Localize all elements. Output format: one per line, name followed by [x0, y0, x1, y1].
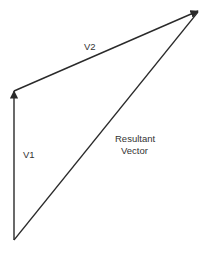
resultant-vector-arrow — [14, 12, 198, 240]
label-v2: V2 — [84, 41, 96, 52]
vector-diagram: V2 V1 Resultant Vector — [0, 0, 209, 253]
label-resultant-line2: Vector — [121, 145, 148, 156]
label-v1: V1 — [23, 149, 35, 160]
label-resultant-line1: Resultant — [115, 133, 155, 144]
vector-v2-arrow — [14, 11, 198, 91]
